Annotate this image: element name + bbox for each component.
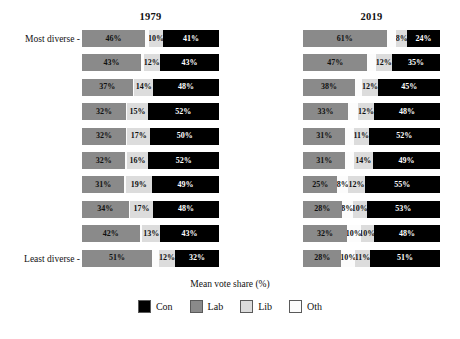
bar-segment-lab: 33% xyxy=(303,103,348,120)
bar-segment-lib: 14% xyxy=(134,79,153,96)
legend-label: Lab xyxy=(208,301,224,312)
bar-segment-con: 50% xyxy=(150,128,219,145)
bar-segment-lab: 25% xyxy=(303,176,337,193)
legend-item-lab[interactable]: Lab xyxy=(190,300,224,313)
bar-segment-lab: 31% xyxy=(303,152,345,169)
bar-segment-lib: 15% xyxy=(127,103,148,120)
bar-segment-lib: 12% xyxy=(144,54,160,71)
bar-segment-lib: 17% xyxy=(130,201,153,218)
bar-row: 31%11%52% xyxy=(303,128,440,145)
chart-container: 1979 2019 Most diverse - Least diverse -… xyxy=(0,0,460,339)
bar-row: 32%15%52% xyxy=(82,103,219,120)
bar-segment-lib: 12% xyxy=(362,79,378,96)
bar-row: 32%10%10%48% xyxy=(303,225,440,242)
bar-row: 61%8%24% xyxy=(303,30,440,47)
bar-segment-oth xyxy=(348,103,358,120)
bar-segment-con: 35% xyxy=(392,54,440,71)
bar-segment-con: 48% xyxy=(153,79,219,96)
bar-segment-lab: 34% xyxy=(82,201,129,218)
bar-segment-con: 41% xyxy=(163,30,219,47)
bar-segment-lib: 16% xyxy=(127,152,149,169)
bar-segment-lib: 19% xyxy=(126,176,152,193)
panel-title-1979: 1979 xyxy=(82,11,219,22)
bar-segment-lib: 10% xyxy=(149,30,163,47)
bar-segment-oth: 8% xyxy=(337,176,348,193)
bar-segment-con: 53% xyxy=(367,201,440,218)
bar-segment-lab: 37% xyxy=(82,79,133,96)
legend-swatch-icon-lab xyxy=(190,300,203,313)
bar-segment-con: 48% xyxy=(374,225,440,242)
bar-segment-con: 52% xyxy=(148,103,219,120)
bar-segment-lib: 10% xyxy=(361,225,375,242)
legend-item-lib[interactable]: Lib xyxy=(240,300,272,313)
bar-segment-lib: 11% xyxy=(354,128,369,145)
legend-swatch-icon-oth xyxy=(289,300,302,313)
bar-row: 33%12%48% xyxy=(303,103,440,120)
bar-segment-lib: 12% xyxy=(376,54,392,71)
bar-segment-con: 45% xyxy=(378,79,440,96)
bar-segment-con: 52% xyxy=(369,128,440,145)
bar-segment-con: 52% xyxy=(148,152,219,169)
bar-segment-lab: 43% xyxy=(82,54,141,71)
bar-segment-lib: 12% xyxy=(358,103,374,120)
bar-row: 38%12%45% xyxy=(303,79,440,96)
bar-segment-con: 49% xyxy=(373,152,440,169)
bar-segment-lib: 17% xyxy=(127,128,150,145)
bar-segment-con: 48% xyxy=(374,103,440,120)
bar-segment-lab: 31% xyxy=(303,128,345,145)
bar-segment-oth xyxy=(387,30,397,47)
bar-segment-con: 43% xyxy=(160,54,219,71)
bar-segment-lib: 13% xyxy=(142,225,160,242)
bar-segment-lab: 31% xyxy=(82,176,124,193)
bar-segment-lab: 47% xyxy=(303,54,367,71)
bar-row: 25%8%12%55% xyxy=(303,176,440,193)
y-axis-label-least-diverse: Least diverse - xyxy=(0,254,80,264)
bar-row: 34%17%48% xyxy=(82,201,219,218)
bar-row: 28%10%11%51% xyxy=(303,250,440,267)
bar-segment-lab: 32% xyxy=(82,128,126,145)
bar-segment-con: 48% xyxy=(153,201,219,218)
legend-label: Lib xyxy=(258,301,272,312)
legend-label: Con xyxy=(156,301,173,312)
bar-segment-oth: 8% xyxy=(342,201,353,218)
bar-segment-lib: 12% xyxy=(159,250,175,267)
bar-segment-lab: 42% xyxy=(82,225,140,242)
bar-row: 43%12%43% xyxy=(82,54,219,71)
bar-segment-con: 51% xyxy=(370,250,440,267)
bar-segment-con: 32% xyxy=(175,250,219,267)
bar-row: 42%13%43% xyxy=(82,225,219,242)
bar-segment-oth xyxy=(345,128,353,145)
legend-label: Oth xyxy=(307,301,322,312)
bar-row: 32%17%50% xyxy=(82,128,219,145)
bar-segment-oth: 10% xyxy=(341,250,355,267)
bar-segment-oth xyxy=(152,250,159,267)
bar-segment-lab: 51% xyxy=(82,250,152,267)
bar-segment-con: 43% xyxy=(160,225,219,242)
bar-segment-lab: 61% xyxy=(303,30,387,47)
bar-segment-lab: 28% xyxy=(303,250,341,267)
bar-row: 31%14%49% xyxy=(303,152,440,169)
legend-swatch-icon-lib xyxy=(240,300,253,313)
bar-row: 47%12%35% xyxy=(303,54,440,71)
legend-item-oth[interactable]: Oth xyxy=(289,300,322,313)
bar-panel-1979: 46%10%41%43%12%43%37%14%48%32%15%52%32%1… xyxy=(82,28,219,272)
bar-segment-lib: 12% xyxy=(348,176,364,193)
bar-segment-lib: 10% xyxy=(353,201,367,218)
bar-row: 31%19%49% xyxy=(82,176,219,193)
legend: ConLabLibOth xyxy=(0,300,460,313)
bar-segment-lab: 32% xyxy=(82,103,126,120)
bar-panel-2019: 61%8%24%47%12%35%38%12%45%33%12%48%31%11… xyxy=(303,28,440,272)
bar-segment-lib: 11% xyxy=(355,250,370,267)
bar-segment-con: 24% xyxy=(407,30,440,47)
bar-segment-oth xyxy=(367,54,375,71)
bar-segment-lab: 38% xyxy=(303,79,355,96)
bar-segment-oth xyxy=(345,152,353,169)
legend-item-con[interactable]: Con xyxy=(138,300,173,313)
bar-row: 32%16%52% xyxy=(82,152,219,169)
bar-row: 51%12%32% xyxy=(82,250,219,267)
x-axis-caption: Mean vote share (%) xyxy=(0,279,460,289)
bar-row: 46%10%41% xyxy=(82,30,219,47)
bar-row: 28%8%10%53% xyxy=(303,201,440,218)
bar-segment-oth xyxy=(355,79,362,96)
legend-swatch-icon-con xyxy=(138,300,151,313)
